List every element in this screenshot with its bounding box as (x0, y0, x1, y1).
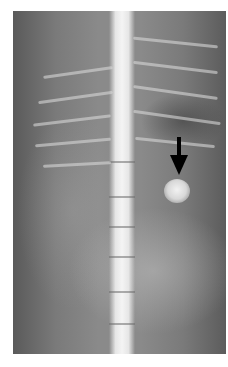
rib (133, 61, 218, 74)
spine (109, 11, 135, 354)
rib (38, 91, 113, 104)
rib (133, 37, 218, 49)
xray-image (13, 11, 226, 354)
rib (43, 161, 111, 168)
vertebra-gap (109, 161, 135, 163)
vertebra-gap (109, 226, 135, 228)
vertebra-gap (109, 196, 135, 198)
rib (133, 85, 218, 100)
rib (33, 114, 111, 126)
vertebra-gap (109, 256, 135, 258)
rib (133, 110, 221, 125)
radiopaque-lesion (164, 179, 190, 203)
arrow-down-icon (170, 137, 188, 175)
rib (43, 66, 113, 79)
vertebra-gap (109, 323, 135, 325)
vertebra-gap (109, 291, 135, 293)
rib (35, 138, 111, 148)
